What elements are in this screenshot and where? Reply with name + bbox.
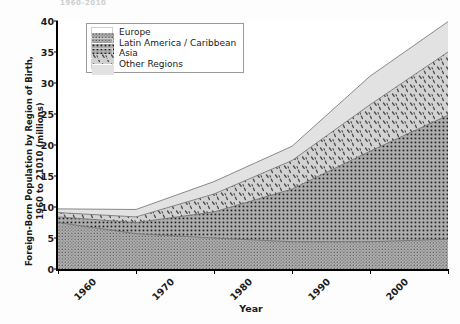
cropped-title: 1960-2010: [60, 0, 170, 6]
legend-label: Asia: [119, 48, 138, 58]
legend-label: Latin America / Caribbean: [119, 38, 236, 48]
legend-item: Europe: [91, 27, 236, 38]
y-tick-mark: [54, 83, 58, 84]
x-tick-mark: [136, 269, 137, 274]
y-tick-label: 35: [41, 47, 54, 58]
x-tick-mark: [292, 269, 293, 274]
y-tick-mark: [54, 176, 58, 177]
chart-canvas: 1960-2010 Foreign-Born Population by Reg…: [0, 0, 460, 324]
legend-item: Asia: [91, 48, 236, 59]
legend-label: Other Regions: [119, 59, 183, 69]
y-tick-label: 0: [47, 264, 54, 275]
y-tick-mark: [54, 114, 58, 115]
y-tick-label: 20: [41, 140, 54, 151]
y-tick-label: 30: [41, 78, 54, 89]
y-tick-mark: [54, 145, 58, 146]
chart-legend: EuropeLatin America / CaribbeanAsiaOther…: [86, 23, 244, 73]
y-tick-mark: [54, 52, 58, 53]
y-tick-mark: [54, 207, 58, 208]
x-tick-mark: [214, 269, 215, 274]
legend-swatch: [91, 27, 113, 37]
legend-item: Other Regions: [91, 59, 236, 70]
x-tick-mark: [370, 269, 371, 274]
y-tick-label: 5: [47, 233, 54, 244]
x-axis-title: Year: [56, 303, 446, 314]
legend-item: Latin America / Caribbean: [91, 38, 236, 49]
legend-swatch: [91, 48, 113, 58]
x-tick-label: 1990: [306, 276, 332, 302]
x-tick-label: 1960: [72, 276, 98, 302]
x-tick-mark: [58, 269, 59, 274]
legend-swatch: [91, 59, 113, 69]
y-tick-label: 15: [41, 171, 54, 182]
legend-label: Europe: [119, 27, 151, 37]
y-tick-label: 25: [41, 109, 54, 120]
y-tick-label: 40: [41, 16, 54, 27]
y-axis-title: Foreign-Born Population by Region of Bir…: [24, 36, 46, 286]
legend-swatch: [91, 38, 113, 48]
x-tick-label: 2000: [384, 276, 410, 302]
x-tick-mark: [448, 269, 449, 274]
y-tick-mark: [54, 21, 58, 22]
y-tick-mark: [54, 238, 58, 239]
x-tick-label: 1980: [228, 276, 254, 302]
y-tick-label: 10: [41, 202, 54, 213]
x-tick-label: 1970: [150, 276, 176, 302]
